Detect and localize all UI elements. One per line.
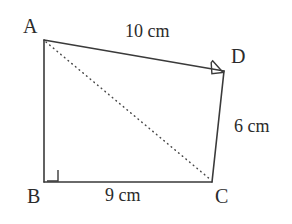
edge-DC bbox=[212, 71, 224, 182]
side-length-ad: 10 cm bbox=[125, 22, 170, 40]
side-length-dc: 6 cm bbox=[234, 117, 270, 135]
vertex-label-b: B bbox=[27, 186, 40, 206]
vertex-label-a: A bbox=[23, 16, 37, 36]
side-length-bc: 9 cm bbox=[105, 186, 141, 204]
geometry-figure: A B C D 10 cm 6 cm 9 cm bbox=[0, 0, 292, 224]
edge-AD bbox=[44, 40, 224, 71]
diagonal-AC bbox=[46, 42, 211, 180]
right-angle-D bbox=[211, 61, 223, 74]
vertex-label-d: D bbox=[231, 46, 245, 66]
vertex-label-c: C bbox=[215, 186, 228, 206]
right-angle-B bbox=[47, 170, 58, 181]
